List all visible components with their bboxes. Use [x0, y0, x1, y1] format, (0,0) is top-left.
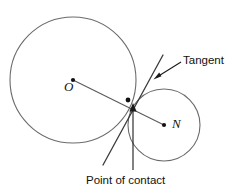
- label-center-o: O: [64, 80, 73, 93]
- point-of-contact-dot: [126, 98, 131, 103]
- geometry-diagram-canvas: O N Tangent Point of contact: [0, 0, 238, 195]
- label-point-of-contact: Point of contact: [86, 175, 165, 187]
- label-center-n: N: [172, 117, 181, 130]
- center-to-center-line: [73, 80, 164, 125]
- diagram-svg: [0, 0, 238, 195]
- label-tangent: Tangent: [183, 55, 224, 67]
- center-dot-n: [162, 123, 166, 127]
